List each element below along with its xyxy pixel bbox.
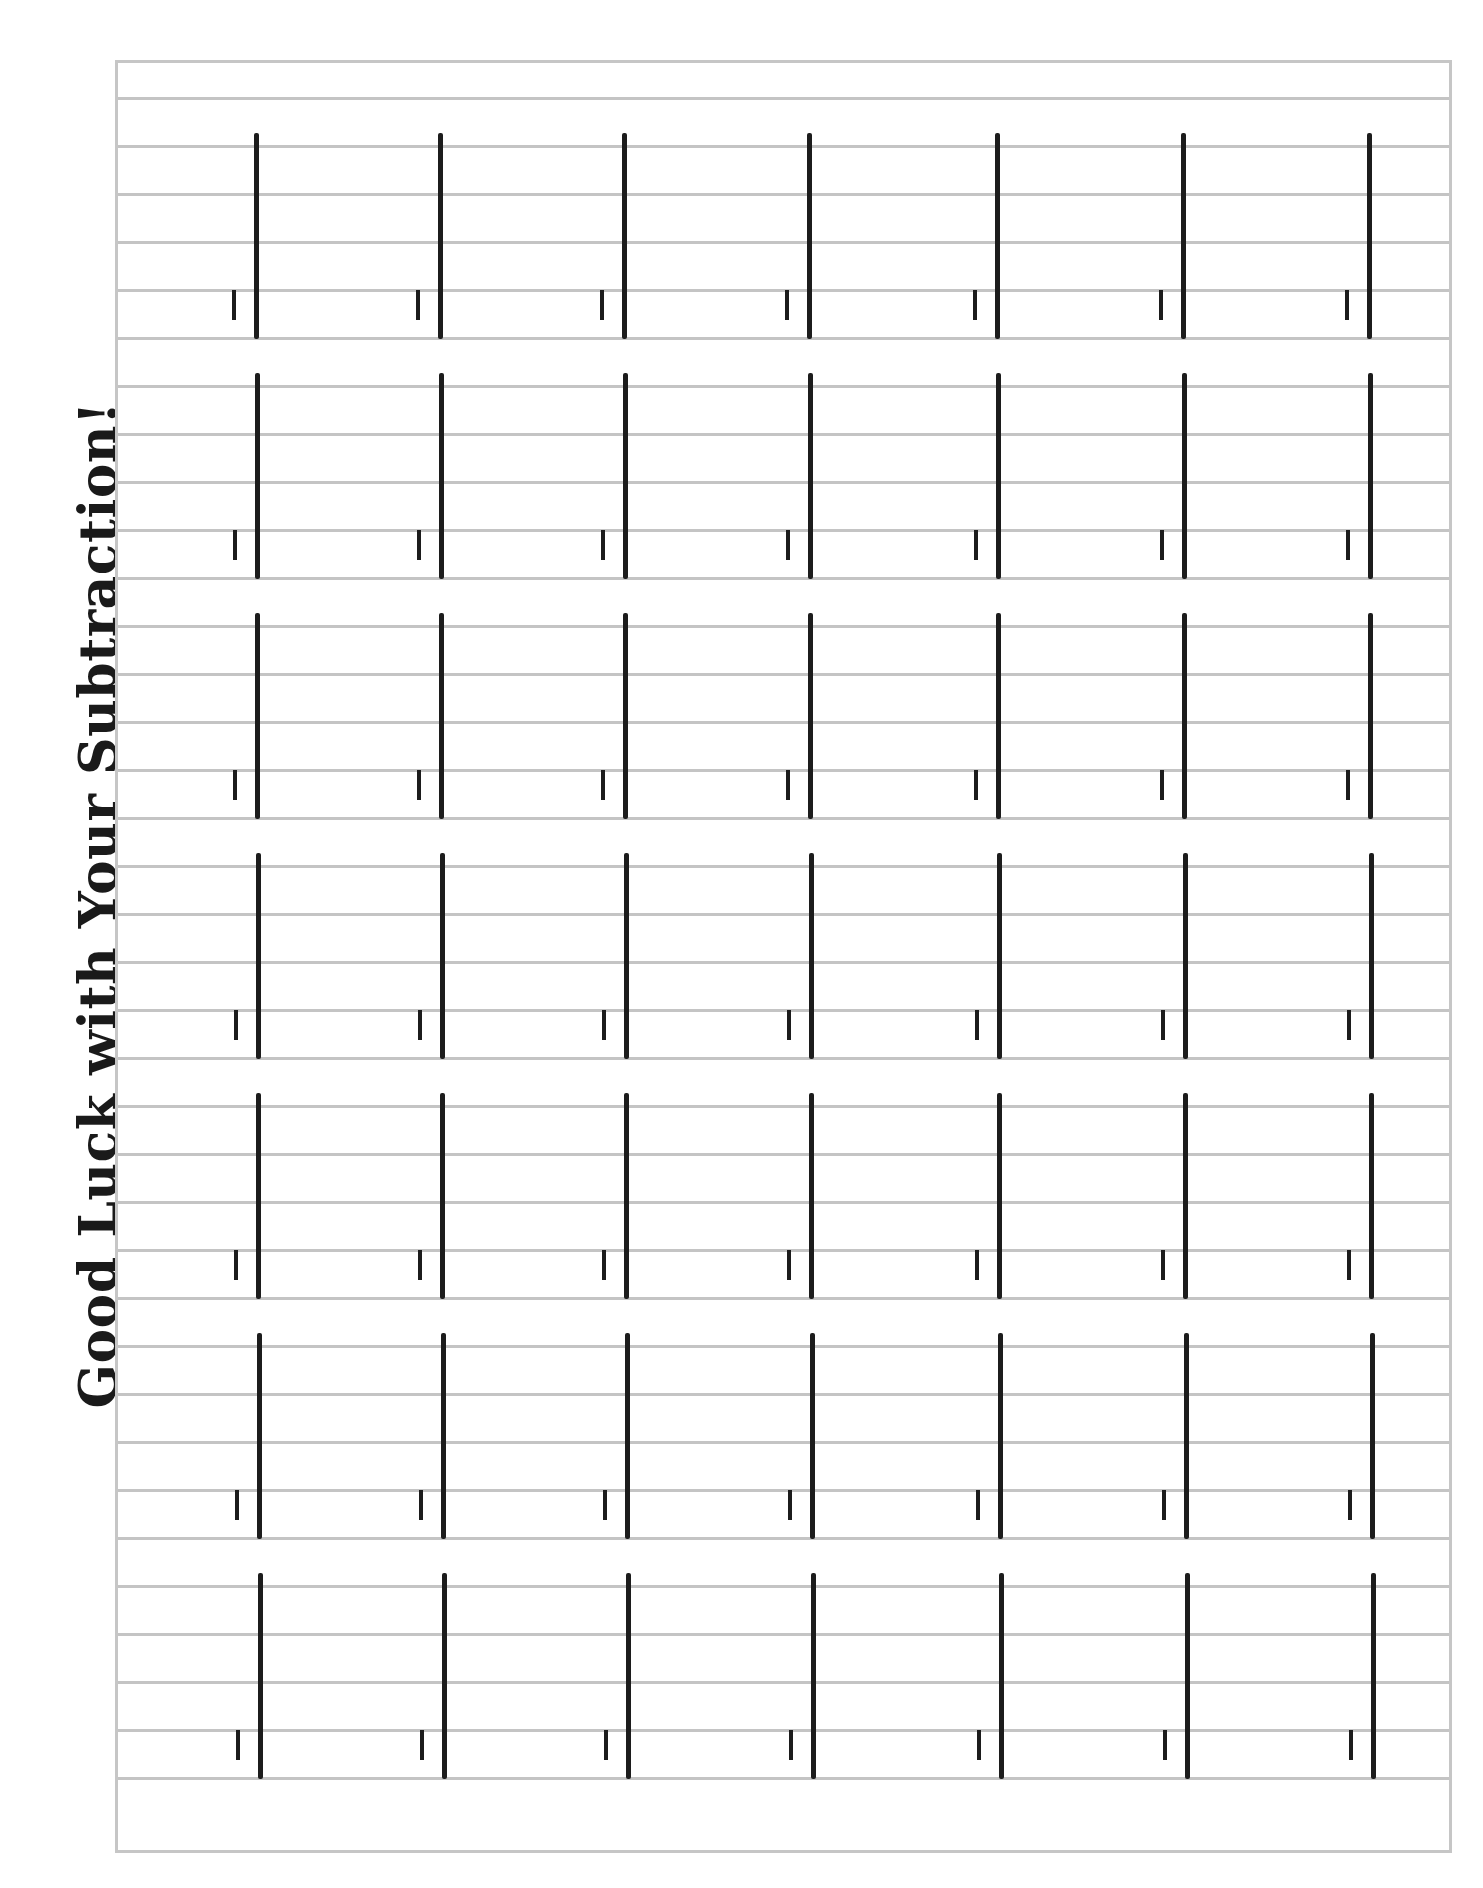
subtraction-problem[interactable] <box>1335 1333 1375 1539</box>
minus-sign-icon <box>975 1250 979 1280</box>
minus-sign-icon <box>974 530 978 560</box>
problem-divider-bar <box>1183 853 1188 1059</box>
title-column: Good Luck with Your Subtraction! <box>0 0 115 1888</box>
minus-sign-icon <box>1349 1730 1353 1760</box>
subtraction-problem[interactable] <box>1149 1333 1189 1539</box>
subtraction-problem[interactable] <box>406 1333 446 1539</box>
subtraction-problem[interactable] <box>1334 853 1374 1059</box>
subtraction-problem[interactable] <box>960 133 1000 339</box>
problem-divider-bar <box>441 1333 446 1539</box>
minus-sign-icon <box>603 1490 607 1520</box>
minus-sign-icon <box>787 1250 791 1280</box>
subtraction-problem[interactable] <box>1147 613 1187 819</box>
subtraction-problem[interactable] <box>1333 373 1373 579</box>
subtraction-problem[interactable] <box>962 1093 1002 1299</box>
problem-divider-bar <box>625 1333 630 1539</box>
subtraction-problem[interactable] <box>223 1573 263 1779</box>
subtraction-problem[interactable] <box>587 133 627 339</box>
minus-sign-icon <box>604 1730 608 1760</box>
problem-divider-bar <box>1369 1093 1374 1299</box>
worksheet-grid <box>115 60 1452 1853</box>
minus-sign-icon <box>1160 770 1164 800</box>
subtraction-problem[interactable] <box>775 1333 815 1539</box>
subtraction-problem[interactable] <box>590 1333 630 1539</box>
subtraction-problem[interactable] <box>219 133 259 339</box>
problem-divider-bar <box>810 1333 815 1539</box>
problem-divider-bar <box>809 853 814 1059</box>
minus-sign-icon <box>234 1250 238 1280</box>
problem-divider-bar <box>997 853 1002 1059</box>
subtraction-problem[interactable] <box>773 373 813 579</box>
subtraction-problem[interactable] <box>964 1573 1004 1779</box>
ruled-line <box>118 97 1449 100</box>
minus-sign-icon <box>602 1250 606 1280</box>
subtraction-problem[interactable] <box>405 1093 445 1299</box>
subtraction-problem[interactable] <box>1150 1573 1190 1779</box>
minus-sign-icon <box>419 1490 423 1520</box>
subtraction-problem[interactable] <box>1148 853 1188 1059</box>
subtraction-problem[interactable] <box>961 373 1001 579</box>
problem-divider-bar <box>1181 133 1186 339</box>
subtraction-problem[interactable] <box>404 613 444 819</box>
problem-divider-bar <box>999 1573 1004 1779</box>
minus-sign-icon <box>785 290 789 320</box>
subtraction-problem[interactable] <box>1332 133 1372 339</box>
subtraction-problem[interactable] <box>1336 1573 1376 1779</box>
subtraction-problem[interactable] <box>589 1093 629 1299</box>
minus-sign-icon <box>1163 1730 1167 1760</box>
minus-sign-icon <box>789 1730 793 1760</box>
minus-sign-icon <box>418 1010 422 1040</box>
problem-divider-bar <box>998 1333 1003 1539</box>
problem-divider-bar <box>1184 1333 1189 1539</box>
minus-sign-icon <box>236 1730 240 1760</box>
subtraction-problem[interactable] <box>221 1093 261 1299</box>
subtraction-problem[interactable] <box>405 853 445 1059</box>
problem-divider-bar <box>256 1093 261 1299</box>
subtraction-problem[interactable] <box>588 373 628 579</box>
subtraction-problem[interactable] <box>589 853 629 1059</box>
subtraction-problem[interactable] <box>403 133 443 339</box>
problem-divider-bar <box>624 853 629 1059</box>
subtraction-problem[interactable] <box>963 1333 1003 1539</box>
subtraction-problem[interactable] <box>220 373 260 579</box>
problem-divider-bar <box>254 133 259 339</box>
subtraction-problem[interactable] <box>774 1093 814 1299</box>
subtraction-problem[interactable] <box>407 1573 447 1779</box>
subtraction-problem[interactable] <box>1333 613 1373 819</box>
subtraction-problem[interactable] <box>1147 373 1187 579</box>
subtraction-problem[interactable] <box>1146 133 1186 339</box>
subtraction-problem[interactable] <box>776 1573 816 1779</box>
minus-sign-icon <box>602 1010 606 1040</box>
minus-sign-icon <box>420 1730 424 1760</box>
subtraction-problem[interactable] <box>772 133 812 339</box>
minus-sign-icon <box>788 1490 792 1520</box>
problem-divider-bar <box>1370 1333 1375 1539</box>
subtraction-problem[interactable] <box>774 853 814 1059</box>
problem-divider-bar <box>996 613 1001 819</box>
problem-divider-bar <box>811 1573 816 1779</box>
minus-sign-icon <box>1159 290 1163 320</box>
subtraction-problem[interactable] <box>220 613 260 819</box>
subtraction-problem[interactable] <box>773 613 813 819</box>
problem-divider-bar <box>255 613 260 819</box>
problem-divider-bar <box>1371 1573 1376 1779</box>
subtraction-problem[interactable] <box>1334 1093 1374 1299</box>
minus-sign-icon <box>977 1730 981 1760</box>
minus-sign-icon <box>1347 1010 1351 1040</box>
subtraction-problem[interactable] <box>1148 1093 1188 1299</box>
subtraction-problem[interactable] <box>222 1333 262 1539</box>
subtraction-problem[interactable] <box>962 853 1002 1059</box>
minus-sign-icon <box>601 530 605 560</box>
subtraction-problem[interactable] <box>588 613 628 819</box>
problem-divider-bar <box>624 1093 629 1299</box>
subtraction-problem[interactable] <box>404 373 444 579</box>
problem-divider-bar <box>626 1573 631 1779</box>
problem-divider-bar <box>1182 613 1187 819</box>
subtraction-problem[interactable] <box>961 613 1001 819</box>
subtraction-problem[interactable] <box>221 853 261 1059</box>
minus-sign-icon <box>1346 770 1350 800</box>
minus-sign-icon <box>976 1490 980 1520</box>
problem-divider-bar <box>257 1333 262 1539</box>
subtraction-problem[interactable] <box>591 1573 631 1779</box>
minus-sign-icon <box>417 530 421 560</box>
